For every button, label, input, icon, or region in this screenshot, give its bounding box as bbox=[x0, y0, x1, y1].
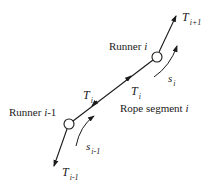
runner-i-1-label: Runner i-1 bbox=[9, 107, 56, 118]
rope-segment-label: Rope segment i bbox=[120, 103, 188, 114]
diagram-graphics bbox=[0, 0, 204, 182]
arc-length-i-label: si bbox=[168, 69, 176, 85]
tension-bottom-arrow bbox=[54, 129, 67, 166]
runner-i-1-circle bbox=[64, 119, 74, 129]
runner-i-label: Runner i bbox=[109, 41, 147, 52]
tension-top-arrow bbox=[159, 16, 176, 52]
arc-length-im1-label: si-1 bbox=[86, 137, 100, 153]
tension-mid-right-label: Ti bbox=[131, 82, 141, 98]
runner-i-circle bbox=[152, 52, 162, 62]
tension-bottom-label: Ti-1 bbox=[62, 163, 79, 179]
tension-mid-left-label: Ti bbox=[83, 86, 93, 102]
tension-top-label: Ti+1 bbox=[182, 8, 201, 24]
rope-diagram: Ti+1 Runner i si Ti Ti Rope segment i Ru… bbox=[0, 0, 204, 182]
